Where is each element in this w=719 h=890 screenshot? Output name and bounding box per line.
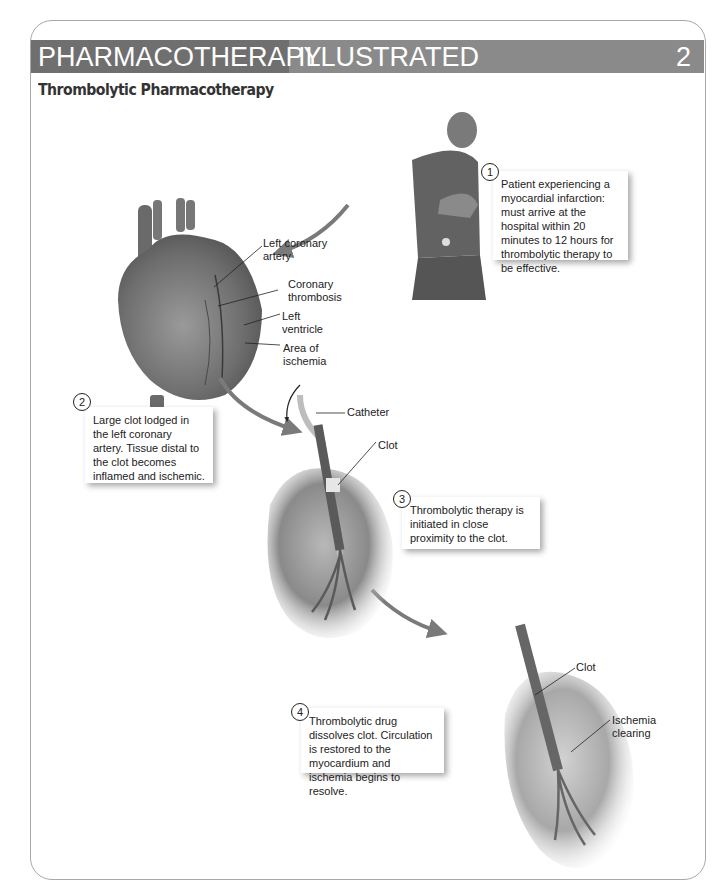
label-catheter: Catheter: [347, 406, 389, 419]
label-left-ventricle: Left ventricle: [282, 310, 332, 336]
step-number-4: 4: [291, 703, 309, 721]
step-number-2: 2: [73, 393, 91, 411]
label-coronary-thrombosis: Coronary thrombosis: [288, 278, 348, 304]
label-clot-resolved: Clot: [576, 661, 596, 674]
catheter-tissue-illustration: [268, 385, 393, 638]
patient-figure: [412, 112, 486, 300]
step-number-3: 3: [393, 490, 411, 508]
callout-step-4: Thrombolytic drug dissolves clot. Circul…: [301, 708, 444, 773]
heart-illustration: [118, 198, 262, 409]
callout-step-2: Large clot lodged in the left coronary a…: [85, 407, 213, 483]
resolved-tissue-illustration: [504, 625, 633, 868]
callout-step-3: Thrombolytic therapy is initiated in clo…: [402, 497, 540, 549]
label-clot-catheter: Clot: [378, 439, 398, 452]
step-number-1: 1: [481, 163, 499, 181]
callout-step-2-text: Large clot lodged in the left coronary a…: [93, 414, 205, 482]
label-ischemia-clearing: Ischemia clearing: [612, 714, 667, 740]
label-area-of-ischemia: Area of ischemia: [283, 342, 333, 368]
callout-step-1-text: Patient experiencing a myocardial infarc…: [501, 178, 614, 274]
label-left-coronary-artery: Left coronary artery: [263, 237, 343, 263]
callout-step-3-text: Thrombolytic therapy is initiated in clo…: [410, 504, 524, 544]
callout-step-1: Patient experiencing a myocardial infarc…: [493, 171, 628, 260]
